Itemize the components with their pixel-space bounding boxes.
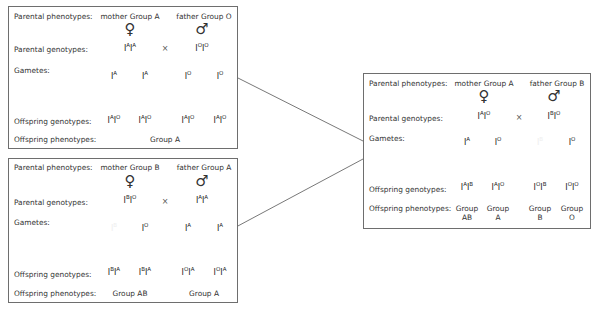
label-offspring-genotypes: Offspring genotypes: [369,185,447,194]
gamete: IO [142,223,149,233]
father-genotype: IAIA [196,195,208,205]
gamete: IA [217,223,223,233]
cross-symbol: × [162,197,169,206]
offspring-genotype: IAIB [461,182,473,192]
female-symbol-icon: ♀ [125,22,136,37]
male-symbol-icon: ♂ [195,22,208,37]
offspring-genotype: IAIO [492,182,505,192]
offspring-genotype: IAIO [214,115,227,125]
offspring-genotype: IAIO [182,115,195,125]
label-offspring-phenotypes: Offspring phenotypes: [14,289,96,298]
offspring-genotype: IOIB [534,182,547,192]
gamete: IB [111,223,117,233]
label-offspring-phenotypes: Offspring phenotypes: [369,204,451,213]
offspring-genotype: IBIA [139,267,151,277]
father-genotype: IBIO [548,111,561,121]
label-gametes: Gametes: [14,66,50,75]
offspring-genotype: IOIA [214,267,227,277]
label-offspring-phenotypes: Offspring phenotypes: [14,135,96,144]
gamete: IO [569,137,576,147]
offspring-phenotype: GroupO [561,204,584,223]
gamete: IB [537,137,543,147]
label-gametes: Gametes: [369,134,405,143]
offspring-phenotype: Group AB [113,289,148,298]
offspring-phenotype: GroupAB [456,204,479,223]
offspring-genotype: IBIA [108,267,120,277]
label-parental-phenotypes: Parental phenotypes: [14,12,93,21]
label-parental-phenotypes: Parental phenotypes: [14,163,93,172]
gamete: IO [185,71,192,81]
mother-genotype: IAIA [124,43,136,53]
male-symbol-icon: ♂ [547,89,560,104]
cross-symbol: × [162,44,169,53]
label-offspring-genotypes: Offspring genotypes: [14,270,92,279]
offspring-genotype: IAIO [139,115,152,125]
gamete: IA [111,71,117,81]
offspring-genotype: IOIO [565,182,578,192]
label-offspring-genotypes: Offspring genotypes: [14,117,92,126]
label-parental-genotypes: Parental genotypes: [14,45,88,54]
father-phenotype: father Group A [177,163,232,172]
gamete: IA [185,223,191,233]
label-parental-phenotypes: Parental phenotypes: [369,79,448,88]
mother-genotype: IAIO [478,111,491,121]
label-gametes: Gametes: [14,218,50,227]
gamete: IA [142,71,148,81]
connector-bottom [236,159,363,227]
label-parental-genotypes: Parental genotypes: [369,114,443,123]
mother-phenotype: mother Group B [100,163,159,172]
gamete: IO [217,71,224,81]
gamete: IA [464,137,470,147]
connector-top [236,77,363,141]
offspring-phenotype: Group A [150,135,180,144]
mother-genotype: IBIO [124,195,137,205]
male-symbol-icon: ♂ [195,174,208,189]
female-symbol-icon: ♀ [125,174,136,189]
label-parental-genotypes: Parental genotypes: [14,198,88,207]
offspring-genotype: IAIO [108,115,121,125]
gamete: IO [495,137,502,147]
female-symbol-icon: ♀ [479,89,490,104]
offspring-genotype: IOIA [182,267,195,277]
offspring-phenotype: GroupB [529,204,552,223]
offspring-phenotype: GroupA [487,204,510,223]
cross-symbol: × [516,113,523,122]
father-genotype: IOIO [195,43,208,53]
offspring-phenotype: Group A [189,289,219,298]
